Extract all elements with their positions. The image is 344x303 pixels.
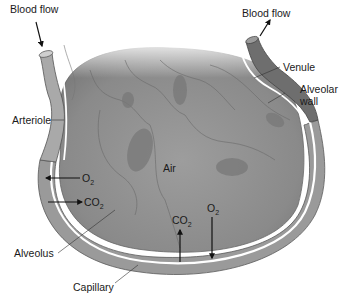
venule-label: Venule (283, 62, 315, 73)
blood-flow-in-label: Blood flow (10, 4, 58, 15)
alveolar-wall-label-line1: Alveolar (300, 84, 338, 95)
o2-bottom-label: O2 (207, 203, 219, 216)
blood-flow-in-arrow (36, 22, 42, 46)
co2-bottom-sub: 2 (188, 221, 192, 228)
arteriole-label: Arteriole (12, 115, 51, 126)
o2-left-label: O2 (82, 173, 94, 186)
blood-flow-out-label: Blood flow (242, 8, 290, 19)
air-label: Air (163, 163, 176, 174)
co2-bottom-base: CO (172, 214, 188, 226)
alveolus-gas-exchange-diagram: Blood flow Blood flow Venule Alveolar wa… (0, 0, 344, 303)
co2-bottom-label: CO2 (172, 215, 192, 228)
co2-left-label: CO2 (84, 197, 104, 210)
o2-left-base: O (82, 172, 90, 184)
alveolar-wall-label-line2: wall (300, 96, 318, 107)
o2-bottom-sub: 2 (215, 209, 219, 216)
capillary-label: Capillary (73, 282, 114, 293)
co2-left-sub: 2 (100, 203, 104, 210)
blood-flow-out-arrow (260, 20, 270, 36)
co2-left-base: CO (84, 196, 100, 208)
o2-bottom-base: O (207, 202, 215, 214)
alveolus-label: Alveolus (14, 248, 54, 259)
o2-left-sub: 2 (90, 179, 94, 186)
